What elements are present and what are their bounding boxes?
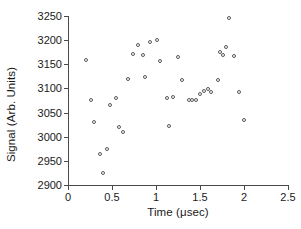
data-point: [171, 95, 175, 99]
data-point: [227, 16, 231, 20]
y-axis-tick-label: 2950: [0, 155, 62, 167]
x-axis-tick-label: 2.5: [273, 191, 301, 203]
data-point: [89, 98, 93, 102]
data-point: [221, 53, 225, 57]
data-point: [176, 55, 180, 59]
y-axis-tick-label: 3200: [0, 34, 62, 46]
data-point: [167, 124, 171, 128]
data-point: [143, 75, 147, 79]
x-axis-tick-label: 1: [141, 191, 171, 203]
x-axis-tick-mark: [68, 186, 69, 190]
data-point: [237, 90, 241, 94]
data-point: [232, 54, 236, 58]
x-axis-tick-mark: [200, 186, 201, 190]
data-point: [108, 103, 112, 107]
data-point: [216, 78, 220, 82]
x-axis-tick-label: 0.5: [97, 191, 127, 203]
data-point: [148, 40, 152, 44]
data-point: [198, 92, 202, 96]
data-point: [155, 38, 159, 42]
y-axis-tick-label: 3150: [0, 58, 62, 70]
data-point: [105, 147, 109, 151]
data-point: [209, 90, 213, 94]
x-axis-label: Time (μsec): [68, 206, 288, 218]
x-axis-tick-label: 0: [53, 191, 83, 203]
x-axis-tick-label: 2: [229, 191, 259, 203]
data-point: [136, 43, 140, 47]
data-point: [165, 96, 169, 100]
data-point: [101, 171, 105, 175]
x-axis-tick-mark: [288, 186, 289, 190]
plot-area: [68, 16, 288, 185]
data-point: [242, 118, 246, 122]
x-axis-tick-mark: [244, 186, 245, 190]
data-point: [117, 125, 121, 129]
data-point: [158, 59, 162, 63]
data-point: [180, 78, 184, 82]
y-axis-tick-label: 3100: [0, 82, 62, 94]
data-point: [92, 120, 96, 124]
x-axis-tick-label: 1.5: [185, 191, 215, 203]
y-axis-tick-label: 3050: [0, 107, 62, 119]
data-point: [194, 98, 198, 102]
data-point: [224, 45, 228, 49]
data-point: [141, 53, 145, 57]
data-point: [84, 58, 88, 62]
x-axis-line: [68, 185, 289, 186]
x-axis-tick-mark: [156, 186, 157, 190]
data-point: [98, 152, 102, 156]
data-point: [114, 96, 118, 100]
data-point: [126, 77, 130, 81]
y-axis-tick-label: 3000: [0, 131, 62, 143]
y-axis-tick-label: 2900: [0, 179, 62, 191]
x-axis-tick-mark: [112, 186, 113, 190]
scatter-plot-figure: Signal (Arb. Units) 29002950300030503100…: [0, 0, 301, 229]
y-axis-tick-label: 3250: [0, 10, 62, 22]
data-point: [131, 52, 135, 56]
data-point: [121, 130, 125, 134]
